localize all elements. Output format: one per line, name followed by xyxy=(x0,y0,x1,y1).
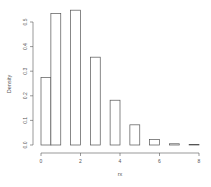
x-tick-label: 8 xyxy=(198,158,201,164)
histogram-bar xyxy=(90,57,100,145)
y-tick-label: 0.4 xyxy=(22,43,28,50)
histogram-bar xyxy=(130,125,140,145)
x-tick-label: 4 xyxy=(119,158,122,164)
histogram-bar xyxy=(71,10,81,145)
x-tick-label: 0 xyxy=(40,158,43,164)
histogram-chart: 0.00.10.20.30.40.5 02468 Density rx xyxy=(0,0,211,187)
y-tick-label: 0.0 xyxy=(22,141,28,148)
histogram-bar xyxy=(169,144,179,145)
y-tick-label: 0.1 xyxy=(22,117,28,124)
histogram-bar xyxy=(51,13,61,145)
histogram-bar xyxy=(150,140,160,145)
histogram-bars xyxy=(41,10,199,145)
y-tick-label: 0.3 xyxy=(22,68,28,75)
x-axis: 02468 xyxy=(40,153,201,164)
x-tick-label: 2 xyxy=(79,158,82,164)
histogram-bar xyxy=(41,77,51,145)
x-axis-title: rx xyxy=(118,171,123,177)
y-tick-label: 0.5 xyxy=(22,18,28,25)
y-tick-label: 0.2 xyxy=(22,92,28,99)
histogram-bar xyxy=(110,100,120,145)
y-axis: 0.00.10.20.30.40.5 xyxy=(22,18,33,148)
x-tick-label: 6 xyxy=(158,158,161,164)
y-axis-title: Density xyxy=(6,75,12,94)
